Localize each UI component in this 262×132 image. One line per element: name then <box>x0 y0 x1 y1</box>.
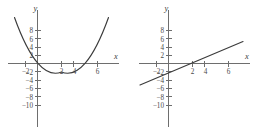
y-tick-label--8: −8 <box>25 94 33 102</box>
x-tick-label-2: 2 <box>191 68 195 76</box>
x-tick-label-6: 6 <box>96 68 100 76</box>
y-tick-label--8: −8 <box>156 94 164 102</box>
y-tick-label--10: −10 <box>22 102 34 110</box>
parabola-plot: −2 2 4 6 8 6 4 2 −2 −4 −6 −8 −10 x y <box>0 0 131 132</box>
y-tick-label--4: −4 <box>25 77 33 85</box>
y-tick-label-8: 8 <box>29 27 33 35</box>
y-axis-label: y <box>33 4 38 13</box>
y-tick-label--2: −2 <box>25 69 33 77</box>
x-tick-label-6: 6 <box>227 68 231 76</box>
graph-panel-parabola: −2 2 4 6 8 6 4 2 −2 −4 −6 −8 −10 x y <box>0 0 131 132</box>
y-tick-label-2: 2 <box>160 52 164 60</box>
y-tick-label--6: −6 <box>156 85 164 93</box>
y-tick-label--6: −6 <box>25 85 33 93</box>
y-tick-label-6: 6 <box>29 36 33 44</box>
line-plot: −2 2 4 6 8 6 4 2 −2 −4 −6 −8 −10 x y <box>131 0 262 132</box>
two-graph-figure: −2 2 4 6 8 6 4 2 −2 −4 −6 −8 −10 x y <box>0 0 262 132</box>
x-tick-label-4: 4 <box>204 68 208 76</box>
y-axis-label: y <box>164 4 169 13</box>
y-tick-label-4: 4 <box>160 44 164 52</box>
y-tick-label--10: −10 <box>153 102 165 110</box>
y-tick-label-8: 8 <box>160 27 164 35</box>
y-tick-label-6: 6 <box>160 36 164 44</box>
x-axis-label: x <box>113 52 118 61</box>
graph-panel-line: −2 2 4 6 8 6 4 2 −2 −4 −6 −8 −10 x y <box>131 0 262 132</box>
y-tick-label-4: 4 <box>29 44 33 52</box>
x-axis-label: x <box>244 52 249 61</box>
